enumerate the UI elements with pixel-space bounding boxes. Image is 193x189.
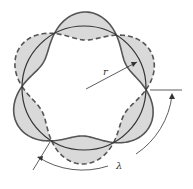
radius-line — [86, 62, 137, 89]
wave-lobe — [114, 90, 154, 143]
arrowhead-left-icon — [37, 156, 43, 161]
wave-lobe — [14, 86, 52, 141]
wavelength-label: λ — [115, 160, 122, 171]
wave-lobes — [14, 12, 155, 164]
arrowhead-right-icon — [169, 93, 175, 99]
wave-lobe — [15, 33, 55, 86]
radius-label: r — [103, 66, 109, 77]
wavelength-tick-left — [33, 142, 50, 170]
standing-wave-diagram: r λ — [0, 0, 193, 189]
